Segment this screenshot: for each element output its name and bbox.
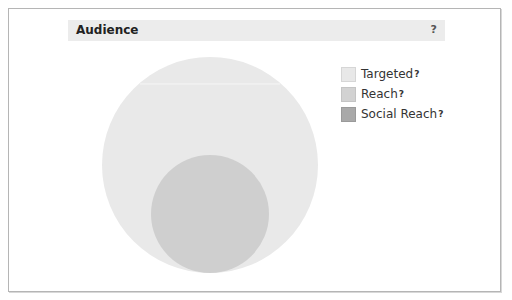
legend-item-social-reach[interactable]: Social Reach ? — [341, 104, 443, 124]
help-icon[interactable]: ? — [399, 89, 404, 99]
reach-circle — [151, 155, 269, 273]
legend: Targeted ? Reach ? Social Reach ? — [341, 64, 443, 124]
targeted-swatch — [341, 67, 356, 82]
legend-item-targeted[interactable]: Targeted ? — [341, 64, 443, 84]
social-reach-swatch — [341, 107, 356, 122]
help-icon[interactable]: ? — [438, 109, 443, 119]
legend-label: Targeted — [361, 67, 413, 81]
help-icon[interactable]: ? — [414, 69, 419, 79]
legend-label: Social Reach — [361, 107, 437, 121]
legend-label: Reach — [361, 87, 398, 101]
venn-diagram — [0, 0, 512, 300]
reach-swatch — [341, 87, 356, 102]
legend-item-reach[interactable]: Reach ? — [341, 84, 443, 104]
